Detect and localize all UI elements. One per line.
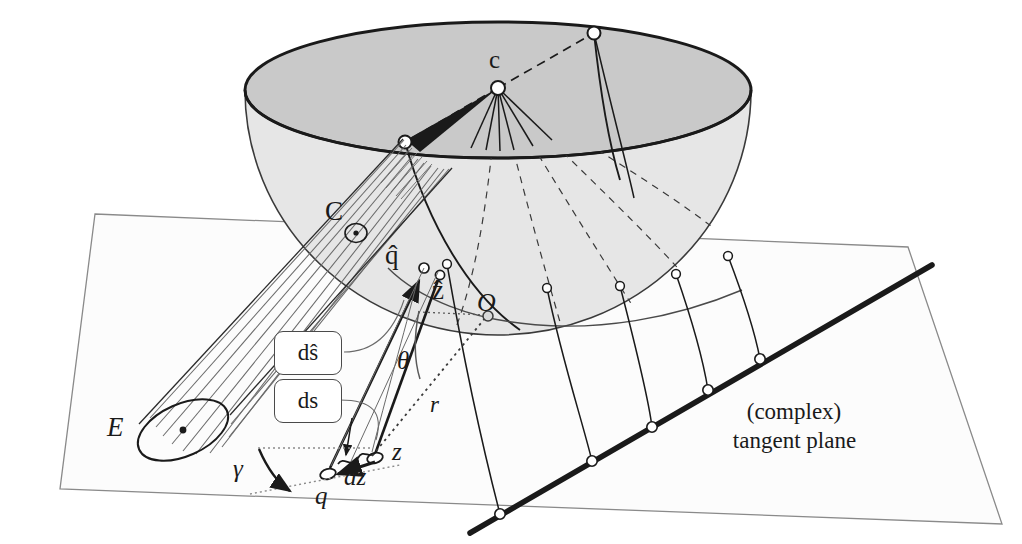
label-gamma: γ [233, 455, 243, 483]
bowl-node [543, 284, 552, 293]
diagonal-node [495, 509, 505, 519]
label-theta: θ [397, 347, 409, 375]
plane-caption-line1: (complex) [714, 399, 874, 425]
box-label-ds-hat: dŝ [274, 331, 342, 375]
bowl-node [616, 282, 625, 291]
label-point-q: q [315, 482, 328, 510]
label-origin-O: O [477, 288, 496, 317]
ellipse-E-center-dot [180, 427, 187, 434]
label-unit-q-hat: q̂ [385, 240, 399, 270]
diagonal-node [587, 456, 597, 466]
bowl-node [724, 252, 733, 261]
diagram-canvas [0, 0, 1022, 544]
bowl-node [443, 260, 452, 269]
label-unit-z-hat: ẑ [432, 275, 444, 305]
label-radius-r: r [430, 392, 439, 418]
label-ellipse-E: E [107, 412, 124, 442]
apex-node-c [491, 81, 505, 95]
bowl-node [672, 270, 681, 279]
label-dz: dz [344, 463, 366, 491]
rim-node-right [588, 27, 601, 40]
diagonal-node [703, 385, 713, 395]
figure-root: c C O E q̂ ẑ q z dz θ r γ dŝ ds (comple… [0, 0, 1022, 544]
plane-caption-line2: tangent plane [702, 428, 887, 454]
label-camera-C: C [325, 196, 343, 226]
label-center-c: c [489, 46, 500, 74]
diagonal-node [647, 422, 657, 432]
diagonal-node [755, 354, 765, 364]
label-point-z: z [392, 438, 402, 466]
box-label-ds: ds [274, 379, 342, 423]
